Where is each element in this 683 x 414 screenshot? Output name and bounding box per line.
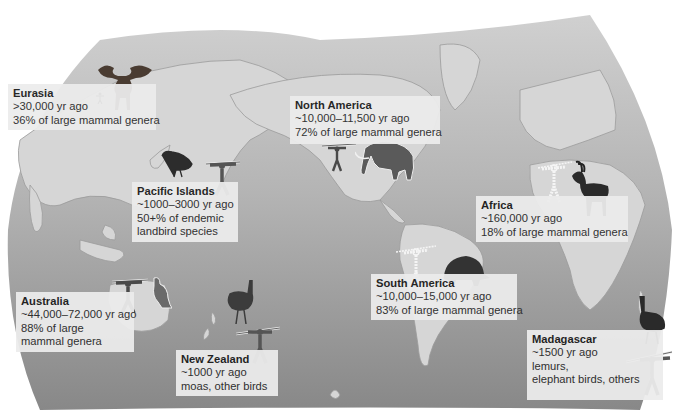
region-time: ~10,000–11,500 yr ago	[295, 112, 434, 125]
region-name: Africa	[481, 199, 622, 212]
region-impact: elephant birds, others	[532, 373, 657, 386]
region-time: ~1000 yr ago	[181, 366, 272, 379]
region-label-new-zealand: New Zealand ~1000 yr ago moas, other bir…	[176, 350, 278, 396]
region-label-south-america: South America ~10,000–15,000 yr ago 83% …	[371, 274, 517, 320]
moa-icon	[226, 280, 256, 326]
region-impact: 83% of large mammal genera	[376, 304, 511, 317]
region-time: ~10,000–15,000 yr ago	[376, 290, 511, 303]
region-label-north-america: North America ~10,000–11,500 yr ago 72% …	[290, 96, 440, 144]
flightless-bird-icon	[160, 150, 194, 178]
region-impact: landbird species	[137, 225, 232, 238]
region-label-pacific-islands: Pacific Islands ~1000–3000 yr ago 50+% o…	[132, 182, 238, 242]
mammoth-icon	[355, 140, 417, 182]
region-impact: 72% of large mammal genera	[295, 126, 434, 139]
spear-hunter-icon	[322, 142, 356, 172]
region-impact: moas, other birds	[181, 380, 272, 393]
region-time: ~1500 yr ago	[532, 346, 657, 359]
region-time: >30,000 yr ago	[13, 100, 150, 113]
region-name: Australia	[21, 295, 128, 308]
region-name: South America	[376, 277, 511, 290]
region-name: North America	[295, 99, 434, 112]
region-name: Eurasia	[13, 87, 150, 100]
region-name: Madagascar	[532, 333, 657, 346]
region-time: ~160,000 yr ago	[481, 212, 622, 225]
region-impact: 18% of large mammal genera	[481, 226, 622, 239]
region-time: ~44,000–72,000 yr ago	[21, 308, 128, 321]
region-impact: 88% of large	[21, 322, 128, 335]
region-label-africa: Africa ~160,000 yr ago 18% of large mamm…	[476, 196, 628, 242]
region-name: Pacific Islands	[137, 185, 232, 198]
region-impact: mammal genera	[21, 335, 128, 348]
region-impact: 36% of large mammal genera	[13, 114, 150, 127]
region-label-australia: Australia ~44,000–72,000 yr ago 88% of l…	[16, 292, 134, 352]
region-label-madagascar: Madagascar ~1500 yr ago lemurs, elephant…	[527, 330, 663, 400]
region-impact: 50+% of endemic	[137, 212, 232, 225]
giant-kangaroo-icon	[148, 276, 172, 310]
region-name: New Zealand	[181, 353, 272, 366]
region-label-eurasia: Eurasia >30,000 yr ago 36% of large mamm…	[8, 84, 156, 130]
region-impact: lemurs,	[532, 360, 657, 373]
region-time: ~1000–3000 yr ago	[137, 198, 232, 211]
